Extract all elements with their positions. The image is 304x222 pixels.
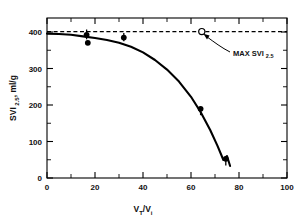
data-point	[223, 156, 229, 162]
y-axis-title: SVI2.5, ml/g	[8, 75, 20, 121]
y-axis-title-main: SVI	[8, 107, 18, 121]
x-axis-title-sub2: i	[151, 210, 153, 216]
plot-frame	[47, 18, 287, 178]
data-point	[84, 32, 90, 38]
y-tick-labels: 0 100 200 300 400	[29, 28, 43, 183]
x-tick-label: 100	[280, 183, 294, 192]
x-tick-label: 60	[187, 183, 196, 192]
y-tick-label: 400	[29, 28, 43, 37]
x-tick-label: 20	[91, 183, 100, 192]
chart-figure: 0 20 40 60 80 100 0 100 200 300 400 VT/V…	[0, 0, 304, 222]
x-tick-label: 80	[235, 183, 244, 192]
y-tick-label: 300	[29, 65, 43, 74]
x-tick-labels: 0 20 40 60 80 100	[45, 183, 294, 192]
data-point-open-circle	[199, 29, 205, 35]
svg-text:VT/Vi: VT/Vi	[133, 204, 152, 216]
y-tick-label: 0	[38, 174, 43, 183]
data-point	[121, 35, 127, 41]
chart-svg: 0 20 40 60 80 100 0 100 200 300 400 VT/V…	[0, 0, 304, 222]
max-svi-annotation-main: MAX SVI	[233, 49, 264, 58]
max-svi-annotation-sub: 2.5	[266, 53, 274, 59]
y-tick-label: 100	[29, 138, 43, 147]
data-point	[85, 40, 91, 46]
x-tick-label: 40	[139, 183, 148, 192]
svg-text:SVI2.5, ml/g: SVI2.5, ml/g	[8, 75, 20, 121]
x-axis-title: VT/Vi	[133, 204, 152, 216]
y-axis-title-units: , ml/g	[8, 75, 18, 97]
data-point	[198, 106, 204, 112]
x-tick-label: 0	[45, 183, 50, 192]
y-tick-label: 200	[29, 101, 43, 110]
